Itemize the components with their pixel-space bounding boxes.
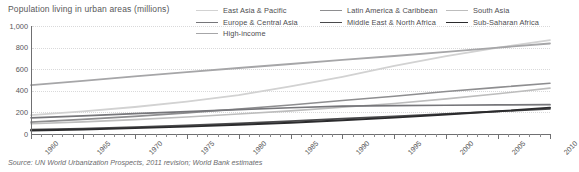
legend-swatch-icon <box>320 22 342 23</box>
x-axis-tick <box>207 134 208 137</box>
x-axis-tick-label: 1995 <box>406 139 424 157</box>
x-axis-tick-label: 2000 <box>458 139 476 157</box>
source-note: Source: UN World Urbanization Prospects,… <box>8 158 262 167</box>
x-axis-tick <box>41 134 42 137</box>
x-axis-tick <box>124 134 125 137</box>
plot-area <box>31 26 550 134</box>
legend-item[interactable]: Latin America & Caribbean <box>320 6 437 15</box>
x-axis-tick <box>73 134 74 137</box>
x-axis-tick-label: 1985 <box>302 139 320 157</box>
legend-item[interactable]: South Asia <box>446 6 509 15</box>
legend-swatch-icon <box>446 10 468 11</box>
y-axis-tick-label: 1,000 <box>2 22 28 31</box>
x-axis-tick <box>93 134 94 137</box>
legend-swatch-icon <box>320 10 342 11</box>
x-axis-tick <box>280 134 281 137</box>
x-axis-tick <box>311 134 312 137</box>
x-axis-tick-label: 2005 <box>510 139 528 157</box>
page-title: Population living in urban areas (millio… <box>8 4 169 14</box>
x-axis-tick <box>228 134 229 137</box>
x-axis-tick <box>332 134 333 137</box>
x-axis-tick <box>467 134 468 137</box>
x-axis-tick <box>508 134 509 137</box>
x-axis-tick <box>176 134 177 137</box>
x-axis-tick <box>384 134 385 137</box>
x-axis-tick <box>156 134 157 137</box>
series-line <box>31 44 550 86</box>
x-axis-tick-label: 1975 <box>198 139 216 157</box>
legend-item[interactable]: East Asia & Pacific <box>196 6 287 15</box>
x-axis-tick <box>114 134 115 137</box>
x-axis-tick <box>540 134 541 137</box>
legend-swatch-icon <box>446 22 468 23</box>
x-axis-tick <box>197 134 198 137</box>
x-axis-tick <box>166 134 167 137</box>
y-axis-tick-label: 400 <box>2 86 28 95</box>
x-axis-tick-label: 1990 <box>354 139 372 157</box>
x-axis-tick <box>488 134 489 137</box>
x-axis-tick <box>374 134 375 137</box>
y-axis-tick-label: 0 <box>2 130 28 139</box>
series-line <box>31 40 550 115</box>
x-axis-tick <box>363 134 364 137</box>
x-axis-tick <box>405 134 406 137</box>
x-axis-tick <box>322 134 323 137</box>
x-axis-tick <box>270 134 271 137</box>
legend-label: East Asia & Pacific <box>223 6 287 15</box>
y-axis-tick-labels: 02004006008001,000 <box>0 26 28 134</box>
x-axis-tick <box>301 134 302 137</box>
x-axis-tick <box>477 134 478 137</box>
x-axis-tick <box>353 134 354 137</box>
y-axis-line <box>31 26 32 134</box>
x-axis-tick <box>436 134 437 137</box>
x-axis-tick <box>425 134 426 137</box>
y-axis-tick-label: 600 <box>2 65 28 74</box>
x-axis-tick <box>519 134 520 137</box>
x-axis-tick-label: 1980 <box>250 139 268 157</box>
x-axis-tick-label: 1970 <box>146 139 164 157</box>
x-axis-tick <box>529 134 530 137</box>
x-axis-tick <box>145 134 146 137</box>
x-axis-tick-label: 1965 <box>95 139 113 157</box>
legend-label: South Asia <box>473 6 509 15</box>
x-axis-tick <box>218 134 219 137</box>
y-axis-tick-label: 800 <box>2 43 28 52</box>
x-axis-tick-label: 2010 <box>562 139 579 157</box>
series-line <box>31 83 550 122</box>
x-axis-tick <box>104 134 105 137</box>
legend-swatch-icon <box>196 22 218 23</box>
x-axis-tick <box>415 134 416 137</box>
x-axis-tick <box>249 134 250 137</box>
x-axis-tick-label: 1960 <box>43 139 61 157</box>
x-axis-tick <box>62 134 63 137</box>
x-axis-tick <box>259 134 260 137</box>
legend-swatch-icon <box>196 10 218 11</box>
series-lines <box>31 26 550 134</box>
x-axis-tick <box>457 134 458 137</box>
legend-label: Latin America & Caribbean <box>347 6 437 15</box>
y-axis-tick-label: 200 <box>2 108 28 117</box>
x-axis-tick <box>52 134 53 137</box>
